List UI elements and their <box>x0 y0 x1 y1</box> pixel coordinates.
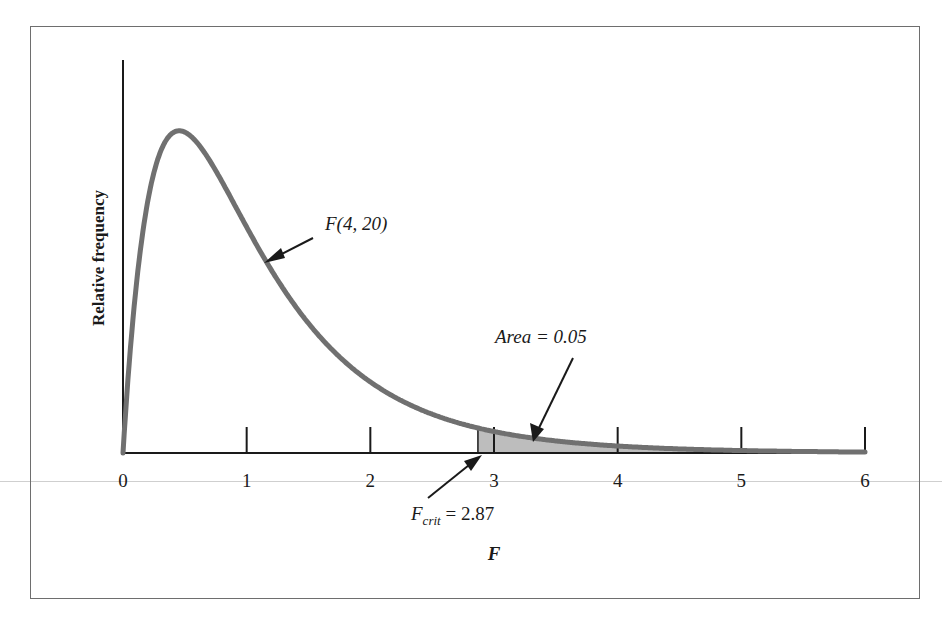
y-axis-label: Relative frequency <box>89 190 109 326</box>
critical-value-annotation: Fcrit = 2.87 <box>411 503 494 529</box>
x-tick-label-0: 0 <box>118 470 128 492</box>
x-tick-label-4: 4 <box>613 470 623 492</box>
area-annotation: Area = 0.05 <box>495 326 587 348</box>
crit-subscript: crit <box>423 513 441 528</box>
curve-annotation: F(4, 20) <box>325 213 387 235</box>
x-tick-label-3: 3 <box>489 470 499 492</box>
arrow-curve-label <box>264 238 313 263</box>
arrow-area-label <box>530 358 573 442</box>
x-tick-label-6: 6 <box>860 470 870 492</box>
f-distribution-curve <box>123 131 865 453</box>
arrow-crit-label <box>428 455 482 498</box>
plot-area <box>0 0 942 635</box>
crit-value: = 2.87 <box>441 503 494 524</box>
x-tick-label-1: 1 <box>242 470 252 492</box>
x-tick-label-2: 2 <box>366 470 376 492</box>
x-tick-label-5: 5 <box>737 470 747 492</box>
crit-symbol: F <box>411 503 423 524</box>
x-axis-label: F <box>488 543 501 565</box>
